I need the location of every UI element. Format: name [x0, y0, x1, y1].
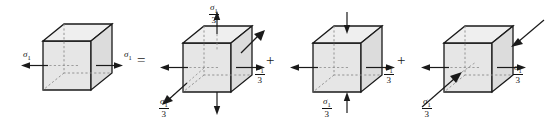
arrow-head-bottom — [214, 106, 220, 115]
label-sigma1-left: σ1 — [23, 50, 31, 61]
figure-canvas: = + + σ1 σ1 — [0, 0, 552, 126]
arrow-shaft-depth-in-upper — [518, 20, 544, 42]
cube-drawing-4 — [414, 0, 552, 126]
label-sigma1-over-3-right: σ1 3 — [255, 62, 265, 86]
arrow-head-depth-out — [254, 30, 265, 41]
label-sigma1-right: σ1 — [124, 50, 132, 61]
arrow-head-bottom-compression — [344, 92, 350, 101]
arrow-head-left — [21, 62, 30, 69]
cube-drawing-1 — [20, 0, 140, 126]
label-sigma1-over-3-right: σ1 3 — [384, 62, 394, 86]
panel-hydrostatic-stress-cube: σ1 3 σ1 3 σ1 3 — [150, 0, 275, 126]
panel-deviatoric-stress-cube-vertical: σ1 3 σ1 3 — [283, 0, 405, 126]
arrow-head-left — [290, 64, 299, 71]
panel-deviatoric-stress-cube-depth: σ1 3 σ1 3 — [414, 0, 552, 126]
label-sigma1-over-3-bottom: σ1 3 — [322, 96, 332, 120]
label-sigma1-over-3-bottom-left: σ1 3 — [159, 96, 169, 120]
label-sigma1-over-3-top: σ1 3 — [209, 2, 219, 26]
panel-uniaxial-stress-cube: σ1 σ1 — [20, 0, 140, 126]
label-sigma1-over-3-right: σ1 3 — [513, 62, 523, 86]
arrow-head-left — [421, 64, 430, 71]
arrow-head-right — [114, 62, 123, 69]
arrow-head-left — [160, 64, 169, 71]
label-sigma1-over-3-bottom-left: σ1 3 — [422, 96, 432, 120]
